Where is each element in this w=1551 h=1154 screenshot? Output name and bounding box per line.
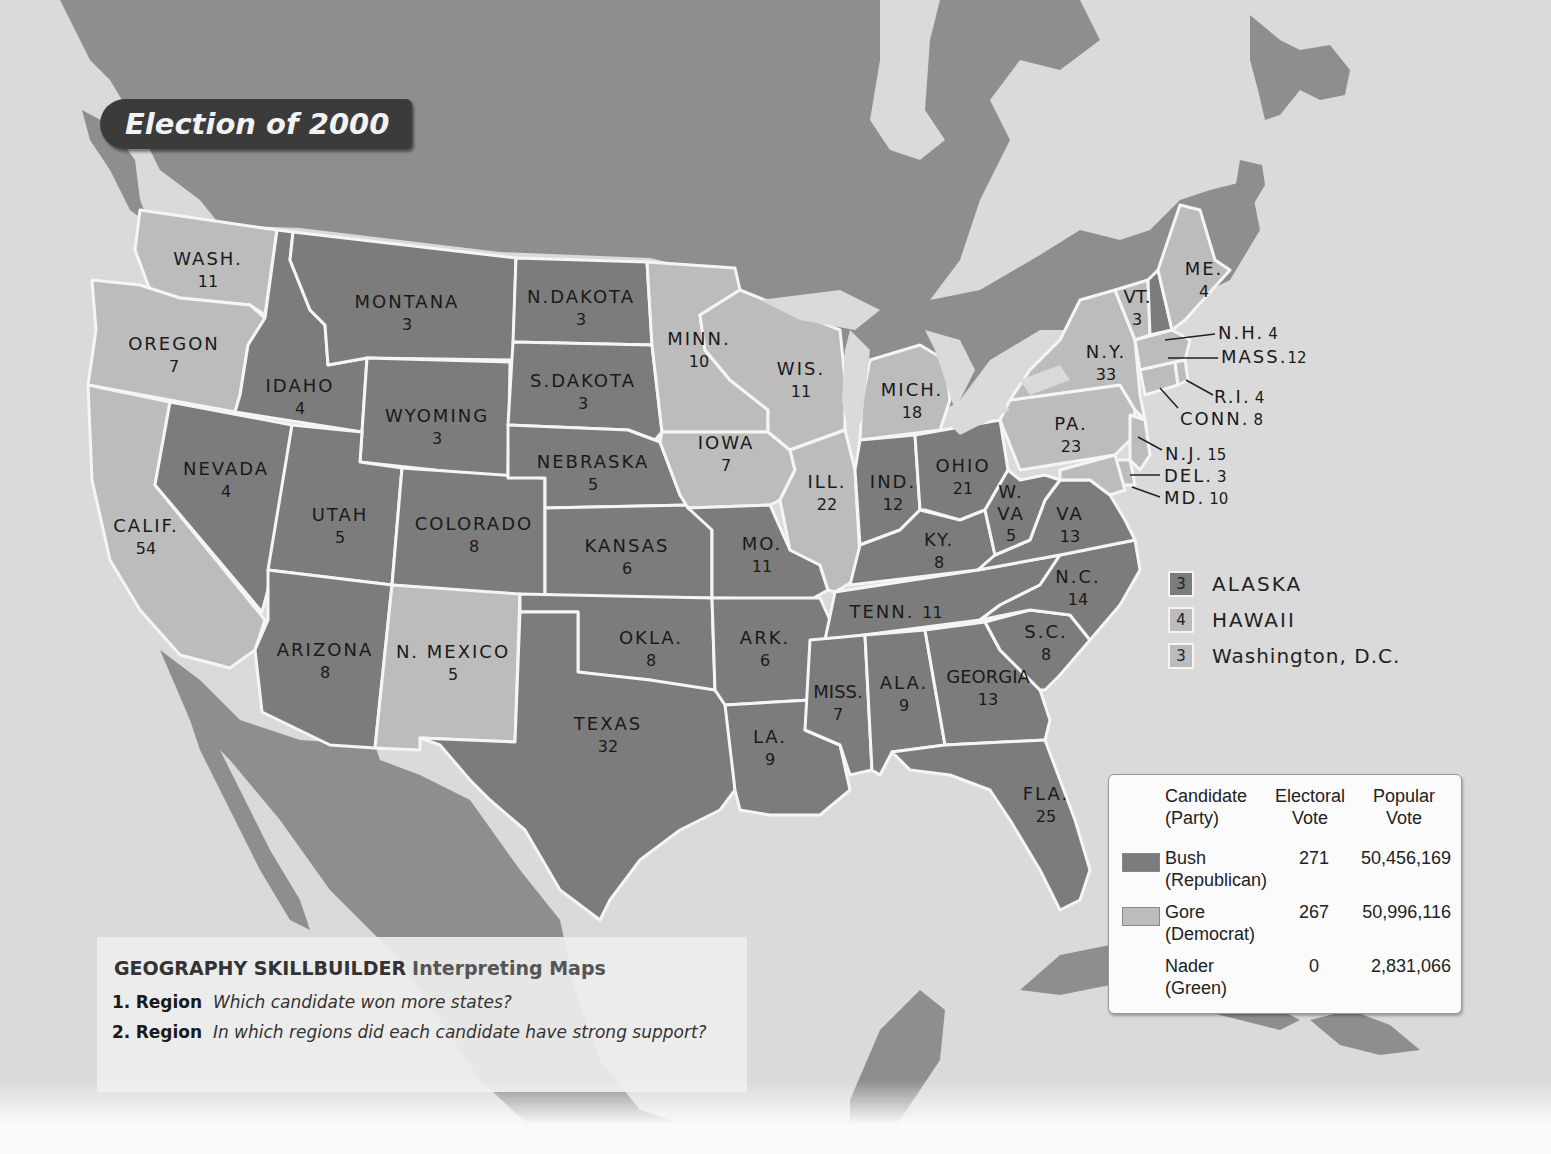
inset-name: Washington, D.C. <box>1212 644 1400 668</box>
inset-list: 3 ALASKA 4 HAWAII 3 Washington, D.C. <box>1168 566 1400 674</box>
label-iowa: IOWA7 <box>698 431 755 477</box>
inset-alaska: 3 ALASKA <box>1168 566 1400 602</box>
newfoundland <box>1250 15 1350 120</box>
inset-hawaii: 4 HAWAII <box>1168 602 1400 638</box>
inset-washington-dc: 3 Washington, D.C. <box>1168 638 1400 674</box>
label-georgia: GEORGIA13 <box>946 665 1030 711</box>
label-missouri: MO.11 <box>742 532 783 578</box>
label-illinois: ILL.22 <box>807 470 846 516</box>
skillbuilder-question-1: 1. Region Which candidate won more state… <box>112 988 737 1017</box>
skillbuilder-heading: GEOGRAPHY SKILLBUILDER Interpreting Maps <box>114 957 606 979</box>
callout-new-hampshire: N.H.4 <box>1218 322 1278 343</box>
inset-box-gore: 4 <box>1168 607 1194 633</box>
label-wisconsin: WIS.11 <box>777 357 825 403</box>
page-fade <box>0 1080 1551 1154</box>
label-new-york: N.Y.33 <box>1086 340 1126 386</box>
label-arizona: ARIZONA8 <box>277 638 373 684</box>
header-electoral: Electoral Vote <box>1275 785 1345 829</box>
label-oklahoma: OKLA.8 <box>619 626 683 672</box>
callout-rhode-island: R.I.4 <box>1214 386 1264 407</box>
inset-box-gore: 3 <box>1168 643 1194 669</box>
label-california: CALIF.54 <box>113 514 178 560</box>
header-candidate: Candidate (Party) <box>1165 785 1247 829</box>
label-michigan: MICH.18 <box>881 378 943 424</box>
results-legend: Candidate (Party) Electoral Vote Popular… <box>1108 774 1462 1014</box>
callout-massachusetts: MASS.12 <box>1221 346 1307 367</box>
callout-delaware: DEL.3 <box>1164 465 1227 486</box>
inset-name: HAWAII <box>1212 608 1296 632</box>
label-maine: ME.4 <box>1185 257 1224 303</box>
gore-swatch <box>1122 907 1160 926</box>
label-nebraska: NEBRASKA5 <box>537 450 650 496</box>
label-kentucky: KY.8 <box>924 528 954 574</box>
label-vermont: VT.3 <box>1124 285 1151 331</box>
label-virginia: VA13 <box>1056 502 1083 548</box>
label-florida: FLA.25 <box>1023 782 1070 828</box>
label-north-carolina: N.C.14 <box>1055 565 1100 611</box>
label-washington: WASH.11 <box>173 247 243 293</box>
skillbuilder-question-2: 2. Region In which regions did each cand… <box>112 1018 737 1047</box>
label-utah: UTAH5 <box>312 503 369 549</box>
label-minnesota: MINN.10 <box>667 327 731 373</box>
label-ohio: OHIO21 <box>935 454 990 500</box>
skillbuilder-box: GEOGRAPHY SKILLBUILDER Interpreting Maps… <box>97 937 747 1092</box>
bush-swatch <box>1122 853 1160 872</box>
label-mississippi: MISS.7 <box>813 680 862 726</box>
inset-name: ALASKA <box>1212 572 1302 596</box>
label-montana: MONTANA3 <box>355 290 460 336</box>
label-texas: TEXAS32 <box>574 712 642 758</box>
label-south-dakota: S.DAKOTA3 <box>530 369 636 415</box>
label-louisiana: LA.9 <box>753 725 787 771</box>
label-wyoming: WYOMING3 <box>385 404 489 450</box>
label-kansas: KANSAS6 <box>585 534 670 580</box>
hispaniola <box>1310 1010 1420 1055</box>
legend-row-bush: Bush(Republican) 271 50,456,169 <box>1109 847 1461 897</box>
inset-box-bush: 3 <box>1168 571 1194 597</box>
label-colorado: COLORADO8 <box>415 512 533 558</box>
label-idaho: IDAHO4 <box>266 374 335 420</box>
label-west-virginia: W. VA5 <box>991 481 1031 547</box>
label-new-mexico: N. MEXICO5 <box>396 640 510 686</box>
legend-row-nader: Nader(Green) 0 2,831,066 <box>1109 955 1461 1005</box>
label-north-dakota: N.DAKOTA3 <box>527 285 635 331</box>
label-south-carolina: S.C.8 <box>1024 620 1067 666</box>
legend-row-gore: Gore(Democrat) 267 50,996,116 <box>1109 901 1461 951</box>
callout-connecticut: CONN.8 <box>1180 408 1263 429</box>
map-title-banner: Election of 2000 <box>100 99 412 149</box>
label-alabama: ALA.9 <box>880 671 928 717</box>
label-tennessee: TENN. 11 <box>849 600 942 624</box>
label-nevada: NEVADA4 <box>183 457 269 503</box>
label-arkansas: ARK.6 <box>740 626 790 672</box>
label-pennsylvania: PA.23 <box>1054 412 1087 458</box>
header-popular: Popular Vote <box>1373 785 1435 829</box>
state-rhode-island <box>1175 360 1188 385</box>
callout-maryland: MD.10 <box>1164 487 1228 508</box>
callout-new-jersey: N.J.15 <box>1165 443 1226 464</box>
label-oregon: OREGON7 <box>128 332 220 378</box>
label-indiana: IND.12 <box>870 470 916 516</box>
